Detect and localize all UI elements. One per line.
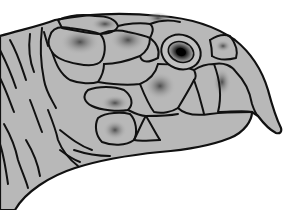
turtle-head-illustration bbox=[0, 0, 291, 210]
